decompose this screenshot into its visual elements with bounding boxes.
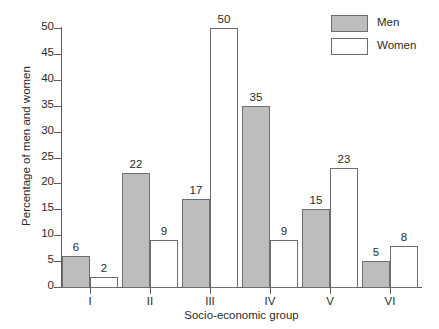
bar-value-label: 5 (363, 246, 389, 258)
x-tick-label-III: III (205, 295, 215, 307)
bar-value-label: 50 (211, 13, 237, 25)
bar-value-label: 23 (331, 153, 357, 165)
y-tick-mark (54, 106, 62, 107)
bar-value-label: 35 (243, 91, 269, 103)
x-tick-label-V: V (326, 295, 334, 307)
bar-women-V: 23 (330, 168, 358, 288)
y-tick-label: 45 (10, 46, 54, 58)
bar-men-V: 15 (302, 209, 330, 288)
bar-men-II: 22 (122, 173, 150, 288)
y-tick: 50 (0, 28, 54, 29)
bar-women-III: 50 (210, 28, 238, 288)
y-tick-mark (54, 287, 62, 288)
y-tick-mark (54, 261, 62, 262)
y-tick: 0 (0, 287, 54, 288)
y-tick-mark (54, 183, 62, 184)
y-tick-label: 0 (10, 279, 54, 291)
y-tick-label: 5 (10, 253, 54, 265)
y-tick-label: 10 (10, 227, 54, 239)
x-tick-mark (270, 288, 271, 294)
bar-chart: 05101520253035404550 Percentage of men a… (0, 0, 439, 329)
x-tick-label-VI: VI (385, 295, 396, 307)
x-tick-label-II: II (147, 295, 153, 307)
legend-swatch-men-icon (331, 15, 368, 32)
bar-women-VI: 8 (390, 246, 418, 288)
x-tick-mark (90, 288, 91, 294)
y-tick-mark (54, 209, 62, 210)
y-tick-mark (54, 235, 62, 236)
bar-value-label: 22 (123, 158, 149, 170)
bar-women-II: 9 (150, 240, 178, 288)
bar-men-III: 17 (182, 199, 210, 288)
x-axis-label: Socio-economic group (61, 309, 422, 321)
bar-men-IV: 35 (242, 106, 270, 288)
x-tick-label-I: I (88, 295, 91, 307)
y-tick-mark (54, 28, 62, 29)
y-tick-label: 15 (10, 201, 54, 213)
x-tick-mark (150, 288, 151, 294)
y-tick-mark (54, 80, 62, 81)
legend-label-women: Women (377, 39, 416, 51)
bar-value-label: 8 (391, 231, 417, 243)
bar-women-IV: 9 (270, 240, 298, 288)
bar-value-label: 9 (151, 225, 177, 237)
bar-value-label: 15 (303, 194, 329, 206)
y-tick-mark (54, 158, 62, 159)
x-tick-mark (330, 288, 331, 294)
bar-men-I: 6 (62, 256, 90, 288)
bar-women-I: 2 (90, 277, 118, 288)
y-tick-mark (54, 132, 62, 133)
legend-label-men: Men (377, 16, 399, 28)
bar-value-label: 17 (183, 184, 209, 196)
legend-swatch-women-icon (331, 38, 368, 55)
x-tick-mark (390, 288, 391, 294)
bar-men-VI: 5 (362, 261, 390, 288)
bar-value-label: 2 (91, 262, 117, 274)
bar-value-label: 6 (63, 241, 89, 253)
bar-value-label: 9 (271, 225, 297, 237)
y-tick-label: 30 (10, 124, 54, 136)
y-tick-label: 50 (10, 20, 54, 32)
x-tick-label-IV: IV (265, 295, 276, 307)
y-tick: 5 (0, 261, 54, 262)
y-tick-label: 35 (10, 98, 54, 110)
y-tick-label: 25 (10, 150, 54, 162)
y-tick-mark (54, 54, 62, 55)
y-tick-label: 20 (10, 175, 54, 187)
y-axis-label: Percentage of men and women (20, 41, 32, 251)
y-tick-label: 40 (10, 72, 54, 84)
x-tick-mark (210, 288, 211, 294)
